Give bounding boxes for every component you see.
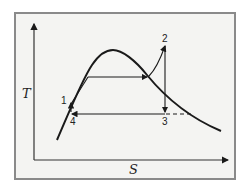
ts-diagram: T S 1 2 3 4 — [0, 0, 248, 191]
point-4-label: 4 — [70, 116, 76, 127]
saturation-dome — [57, 50, 221, 140]
process-1-to-liquid — [71, 77, 88, 104]
point-2-label: 2 — [162, 33, 168, 44]
point-3-label: 3 — [162, 116, 168, 127]
x-axis-label: S — [129, 162, 138, 177]
point-1-label: 1 — [61, 95, 67, 106]
process-superheat — [149, 46, 165, 76]
y-axis-label: T — [22, 86, 32, 101]
